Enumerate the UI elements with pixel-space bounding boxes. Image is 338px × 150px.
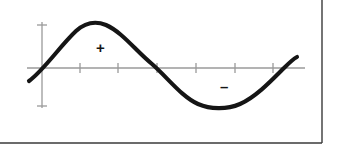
sine-curve [29, 23, 297, 108]
axes [27, 22, 305, 108]
negative-region-label: – [220, 79, 228, 94]
sine-wave-plot [0, 0, 338, 150]
positive-region-label: + [96, 40, 105, 55]
figure-container: + – [0, 0, 338, 150]
